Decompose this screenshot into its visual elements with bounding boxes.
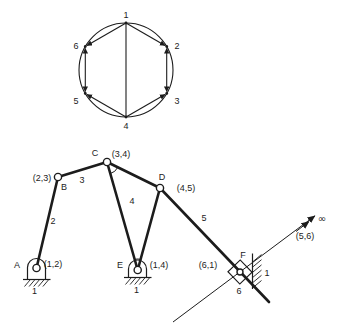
infinity-symbol: ∞ [318, 213, 326, 224]
kinematics-figure: 1 2 3 4 5 6 [0, 0, 343, 331]
figure-canvas: 1 2 3 4 5 6 [0, 0, 343, 331]
ground-wall-F [253, 254, 262, 290]
graph-node-label-5: 5 [73, 96, 78, 106]
pin-joint-F [237, 269, 243, 275]
ground-pivot-E [124, 260, 152, 285]
joint-label-B: B [61, 182, 67, 192]
graph-edge-4-3 [126, 95, 165, 118]
graph-node-label-4: 4 [123, 121, 128, 131]
graph-edge-1-2 [126, 23, 165, 46]
joint-label-A: A [14, 260, 20, 270]
chain-graph: 1 2 3 4 5 6 [73, 10, 179, 131]
pin-joint-E [134, 266, 141, 273]
link-label-6: 6 [236, 286, 241, 296]
ground-hatching-E [126, 278, 150, 285]
pair-label-D: (4,5) [177, 183, 196, 193]
pin-joint-B [54, 173, 61, 180]
joint-label-F: F [240, 250, 246, 260]
link-label-3: 3 [79, 175, 84, 185]
mechanism-diagram: C (3,4) B (2,3) 3 2 D (4,5) 4 5 A (1,2) … [14, 148, 326, 322]
pair-label-F: (6,1) [199, 260, 218, 270]
graph-node-6 [84, 45, 87, 48]
link-4-CE [107, 162, 138, 270]
link-label-2: 2 [50, 216, 55, 226]
joint-label-D: D [159, 172, 166, 182]
joint-label-E: E [117, 260, 123, 270]
graph-node-label-3: 3 [174, 96, 179, 106]
link-4-DE [138, 188, 160, 270]
ground-label-F: 1 [264, 268, 269, 278]
graph-node-3 [165, 92, 168, 95]
pin-joint-A [33, 264, 40, 271]
graph-node-1 [125, 22, 128, 25]
link-4-CD [107, 162, 160, 188]
pair-label-A: (1,2) [44, 259, 63, 269]
graph-node-label-1: 1 [123, 10, 128, 20]
graph-node-label-6: 6 [73, 41, 78, 51]
ground-label-A: 1 [32, 286, 37, 296]
graph-edge-4-5 [87, 95, 126, 118]
pair-label-E: (1,4) [150, 260, 169, 270]
pin-joint-C [103, 158, 110, 165]
pair-label-C: (3,4) [112, 149, 131, 159]
graph-node-4 [125, 116, 128, 119]
slider-pair-label: (5,6) [296, 231, 315, 241]
graph-edge-1-6 [87, 23, 126, 46]
slider-axis-line [173, 216, 315, 322]
pin-joint-D [156, 184, 163, 191]
graph-node-label-2: 2 [174, 41, 179, 51]
slider-axis-second-arrow [296, 222, 309, 232]
graph-node-5 [84, 92, 87, 95]
link-label-4: 4 [129, 196, 134, 206]
link-label-5: 5 [201, 213, 206, 223]
graph-node-2 [165, 45, 168, 48]
joint-label-C: C [92, 148, 99, 158]
pair-label-B: (2,3) [33, 173, 52, 183]
ground-label-E: 1 [134, 285, 139, 295]
